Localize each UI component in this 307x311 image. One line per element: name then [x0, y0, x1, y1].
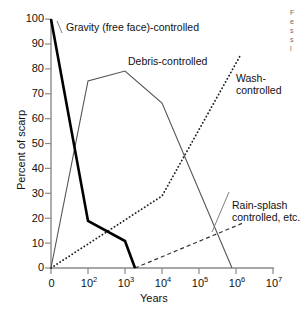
y-tick-label: 100 — [24, 13, 44, 24]
leader-line-gravity — [57, 21, 62, 33]
x-tick-label: 103 — [115, 278, 137, 289]
x-tick-exponent: 2 — [93, 275, 97, 284]
annotation-rain-line-2: controlled, etc. — [232, 212, 300, 224]
figure-container: 100 90 80 70 60 50 40 30 20 10 0 0 102 1… — [0, 0, 307, 311]
y-tick-label: 40 — [24, 163, 44, 174]
caption-sliver-line: e — [290, 17, 305, 26]
x-axis-title: Years — [140, 293, 168, 304]
series-rain-splash-controlled — [135, 223, 243, 268]
caption-sliver-line: F — [290, 8, 305, 17]
y-tick-label: 60 — [24, 113, 44, 124]
x-tick-base: 10 — [155, 277, 167, 289]
annotation-debris-controlled: Debris-controlled — [128, 56, 207, 68]
annotation-gravity-controlled: Gravity (free face)-controlled — [66, 22, 199, 34]
x-tick-label: 104 — [152, 278, 174, 289]
y-tick-label: 70 — [24, 88, 44, 99]
leader-line-rain-splash — [212, 192, 229, 232]
x-tick-base: 10 — [118, 277, 130, 289]
y-tick-label: 20 — [24, 213, 44, 224]
annotation-rain-splash-controlled: Rain-splash controlled, etc. — [232, 200, 300, 224]
y-tick-label: 10 — [24, 238, 44, 249]
caption-sliver-line: s — [290, 26, 305, 35]
caption-edge-sliver: F e s s l — [290, 8, 305, 52]
x-tick-base: 10 — [229, 277, 241, 289]
x-tick-label: 106 — [226, 278, 248, 289]
y-tick-label: 50 — [24, 138, 44, 149]
y-tick-label: 0 — [24, 262, 44, 273]
x-tick-exponent: 7 — [278, 275, 282, 284]
y-tick-label: 80 — [24, 63, 44, 74]
x-axis-ticks — [51, 268, 273, 274]
y-tick-label: 30 — [24, 188, 44, 199]
caption-sliver-line: s — [290, 35, 305, 44]
x-tick-label: 0 — [43, 278, 60, 289]
x-tick-exponent: 3 — [130, 275, 134, 284]
annotation-wash-controlled: Wash- controlled — [236, 73, 282, 97]
y-axis-title: Percent of scarp — [16, 110, 27, 190]
annotation-wash-line-2: controlled — [236, 85, 282, 97]
x-tick-base: 0 — [48, 277, 54, 289]
x-tick-exponent: 5 — [204, 275, 208, 284]
x-tick-base: 10 — [81, 277, 93, 289]
x-tick-base: 10 — [266, 277, 278, 289]
x-tick-base: 10 — [192, 277, 204, 289]
caption-sliver-line: l — [290, 44, 305, 52]
annotation-rain-line-1: Rain-splash — [232, 200, 300, 212]
x-tick-label: 102 — [78, 278, 100, 289]
y-tick-label: 90 — [24, 38, 44, 49]
series-gravity-controlled — [51, 19, 135, 268]
x-tick-label: 105 — [189, 278, 211, 289]
x-tick-label: 107 — [263, 278, 285, 289]
annotation-wash-line-1: Wash- — [236, 73, 282, 85]
chart-plot-area — [0, 0, 307, 311]
x-tick-exponent: 6 — [241, 275, 245, 284]
x-tick-exponent: 4 — [167, 275, 171, 284]
y-axis-ticks — [45, 19, 51, 268]
series-wash-controlled — [51, 56, 240, 268]
